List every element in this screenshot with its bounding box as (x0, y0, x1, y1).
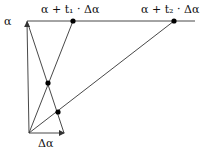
p1-point (70, 18, 75, 23)
p2-point (171, 18, 176, 23)
vector-diagram: α α + t₁ · Δα α + t₂ · Δα Δα (0, 0, 205, 147)
p2-label: α + t₂ · Δα (141, 3, 200, 16)
alpha-label: α (4, 15, 12, 28)
alpha-to-delta-line (27, 21, 64, 133)
intersection-point-1 (45, 80, 50, 85)
p1-label: α + t₁ · Δα (41, 3, 100, 16)
intersection-point-2 (55, 109, 60, 114)
delta-alpha-label: Δα (38, 137, 54, 147)
alpha-vector-arrow (27, 22, 29, 133)
